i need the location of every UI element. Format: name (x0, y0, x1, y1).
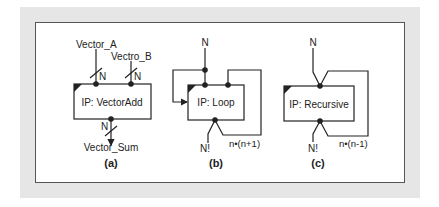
label-feedback: n•(n-1) (339, 138, 368, 149)
label-output: N! (308, 143, 318, 154)
label-input-n: N (201, 37, 208, 48)
junction-dot (203, 83, 207, 87)
junction-dot (213, 118, 217, 122)
junction-dot (318, 84, 322, 88)
diagram-canvas: Vector_A Vectro_B N N IP: VectorAdd N Ve… (0, 0, 439, 207)
caption-c: (c) (311, 157, 325, 169)
label-input-n: N (309, 37, 316, 48)
label-vector-a: Vector_A (76, 39, 117, 50)
input-wire (313, 48, 320, 86)
label-output: N! (200, 143, 210, 154)
label-feedback: n•(n+1) (229, 138, 260, 149)
junction-dot (318, 119, 322, 123)
panel-b (173, 48, 261, 143)
label-width-sum: N (101, 121, 108, 132)
caption-a: (a) (104, 157, 118, 169)
label-width-b: N (134, 71, 141, 82)
recursive-label: IP: Recursive (289, 99, 349, 110)
output-wire (208, 120, 215, 143)
junction-dot (129, 82, 133, 86)
label-vectro-b: Vectro_B (111, 51, 152, 62)
vectoradd-label: IP: VectorAdd (81, 97, 142, 108)
output-wire (313, 121, 320, 142)
junction-dot (94, 82, 98, 86)
panel-c (284, 48, 368, 142)
junction-dot (109, 117, 113, 121)
label-width-a: N (99, 71, 106, 82)
loop-label: IP: Loop (197, 97, 235, 108)
caption-b: (b) (209, 157, 223, 169)
label-vector-sum: Vector_Sum (84, 142, 138, 153)
